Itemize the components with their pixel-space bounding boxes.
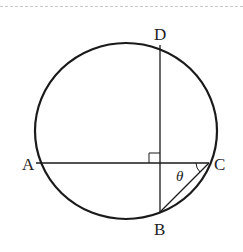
segment-bc — [160, 163, 209, 212]
geometry-figure: D A C B θ — [0, 0, 243, 252]
label-a: A — [22, 155, 35, 174]
label-theta: θ — [176, 168, 184, 184]
label-c: C — [214, 155, 225, 174]
label-d: D — [154, 25, 166, 44]
circle — [35, 43, 217, 219]
label-b: B — [154, 220, 165, 239]
right-angle-marker — [149, 153, 160, 163]
angle-arc — [196, 163, 200, 172]
